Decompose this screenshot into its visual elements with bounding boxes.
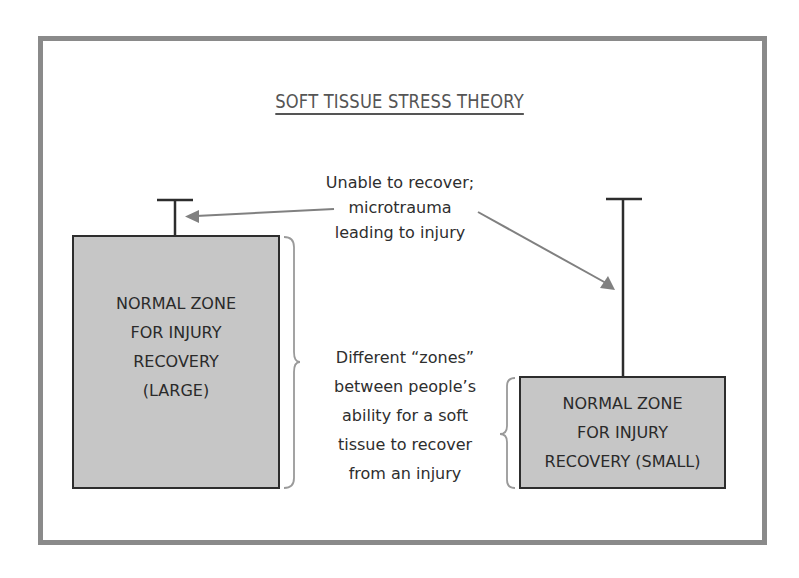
zone-label-line: FOR INJURY [131,318,222,347]
zone-label-line: FOR INJURY [577,418,668,447]
zone-label-line: RECOVERY [133,347,219,376]
annotation-line: leading to injury [300,220,500,245]
annotation-line: between people’s [295,372,515,401]
annotation-line: microtrauma [300,195,500,220]
zone-label-line: RECOVERY (SMALL) [545,447,701,476]
diagram-title: SOFT TISSUE STRESS THEORY [56,90,743,112]
annotation-line: tissue to recover [295,430,515,459]
zone-label-line: NORMAL ZONE [562,389,682,418]
annotation-line: ability for a soft [295,401,515,430]
zone-label-line: NORMAL ZONE [116,289,236,318]
annotation-line: Unable to recover; [300,170,500,195]
large-recovery-zone-box: NORMAL ZONE FOR INJURY RECOVERY (LARGE) [72,235,280,489]
zone-label-line: (LARGE) [143,376,209,405]
annotation-line: Different “zones” [295,343,515,372]
microtrauma-annotation: Unable to recover; microtrauma leading t… [300,170,500,245]
title-text: SOFT TISSUE STRESS THEORY [275,90,524,115]
annotation-line: from an injury [295,459,515,488]
small-recovery-zone-box: NORMAL ZONE FOR INJURY RECOVERY (SMALL) [519,376,726,489]
zones-annotation: Different “zones” between people’s abili… [295,343,515,488]
